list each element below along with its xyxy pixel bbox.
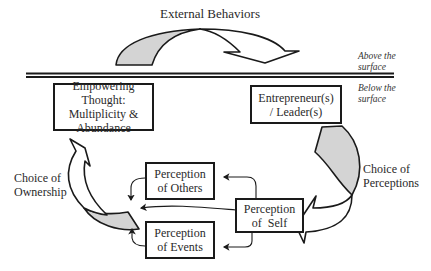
- box-line: of Others: [158, 181, 203, 195]
- perception-of-others-box: Perception of Others: [145, 162, 215, 200]
- label-line: Perceptions: [363, 176, 419, 190]
- label-line: Choice of: [363, 162, 419, 176]
- box-line: Multiplicity &: [69, 107, 139, 121]
- choice-of-perceptions-arrow-icon: [296, 126, 360, 243]
- empowering-thought-box: Empowering Thought: Multiplicity & Abund…: [53, 83, 154, 131]
- choice-of-perceptions-label: Choice of Perceptions: [363, 162, 419, 190]
- box-line: Perception: [154, 167, 205, 181]
- external-behaviors-arrow-icon: [116, 29, 299, 65]
- surface-line: [26, 74, 394, 78]
- box-line: Perception: [244, 202, 295, 216]
- above-surface-label: Above the surface: [358, 51, 396, 73]
- perception-of-self-box: Perception of Self: [235, 198, 304, 233]
- choice-of-ownership-label: Choice of Ownership: [14, 171, 67, 199]
- box-line: Abundance: [76, 121, 131, 135]
- external-behaviors-label: External Behaviors: [140, 7, 280, 21]
- diagram-canvas: [0, 0, 431, 271]
- box-line: of Self: [252, 216, 287, 230]
- below-surface-line-2: surface: [358, 94, 396, 105]
- entrepreneur-leader-box: Entrepreneur(s) / Leader(s): [250, 85, 342, 124]
- label-line: Ownership: [14, 185, 67, 199]
- below-surface-label: Below the surface: [358, 83, 396, 105]
- above-surface-line-1: Above the: [358, 51, 396, 62]
- choice-of-ownership-arrow-icon: [68, 139, 139, 230]
- label-line: Choice of: [14, 171, 67, 185]
- box-line: Entrepreneur(s): [258, 91, 333, 105]
- above-surface-line-2: surface: [358, 62, 396, 73]
- box-line: Empowering Thought:: [55, 79, 152, 107]
- below-surface-line-1: Below the: [358, 83, 396, 94]
- box-line: of Events: [157, 240, 203, 254]
- perception-of-events-box: Perception of Events: [145, 221, 215, 259]
- box-line: Perception: [154, 226, 205, 240]
- box-line: / Leader(s): [270, 105, 322, 119]
